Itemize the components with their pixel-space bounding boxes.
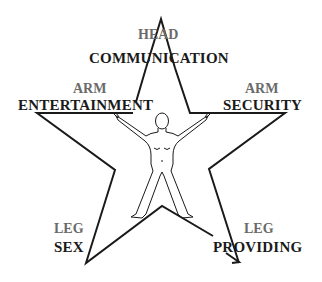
human-figure-icon — [114, 113, 210, 218]
head-role-label: COMMUNICATION — [89, 51, 229, 66]
left-leg-part-label: LEG — [54, 222, 84, 236]
head-part-label: HEAD — [138, 28, 178, 42]
star-diagram: HEAD COMMUNICATION ARM ENTERTAINMENT ARM… — [0, 0, 322, 282]
right-arm-role-label: SECURITY — [223, 98, 302, 113]
right-leg-part-label: LEG — [244, 222, 274, 236]
right-leg-role-label: PROVIDING — [213, 240, 302, 255]
left-arm-part-label: ARM — [73, 82, 106, 96]
left-arm-role-label: ENTERTAINMENT — [18, 98, 153, 113]
left-leg-role-label: SEX — [54, 240, 84, 255]
right-arm-part-label: ARM — [245, 82, 278, 96]
